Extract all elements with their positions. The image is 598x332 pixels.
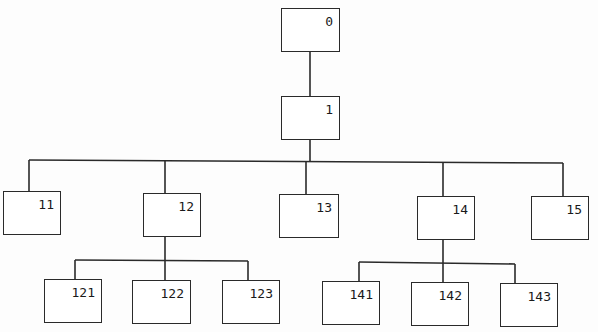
node-label: 123 — [250, 286, 273, 301]
node-15: 15 — [531, 196, 589, 240]
node-121: 121 — [44, 279, 102, 323]
node-143: 143 — [500, 283, 558, 327]
node-label: 11 — [38, 197, 54, 212]
tree-diagram: 0 1 11 12 13 14 15 121 122 123 141 142 1… — [0, 0, 598, 332]
node-label: 13 — [316, 200, 332, 215]
node-label: 14 — [452, 202, 468, 217]
node-label: 121 — [72, 285, 95, 300]
node-14: 14 — [417, 196, 475, 240]
node-11: 11 — [3, 191, 61, 235]
node-13: 13 — [279, 194, 339, 238]
node-1: 1 — [281, 96, 340, 140]
node-123: 123 — [222, 280, 280, 324]
node-label: 142 — [439, 288, 462, 303]
node-142: 142 — [411, 282, 469, 326]
node-label: 15 — [566, 202, 582, 217]
node-0: 0 — [281, 8, 340, 52]
node-122: 122 — [132, 280, 191, 324]
node-12: 12 — [143, 193, 201, 237]
node-label: 122 — [161, 286, 184, 301]
node-label: 143 — [528, 289, 551, 304]
node-label: 1 — [325, 102, 333, 117]
node-label: 12 — [178, 199, 194, 214]
node-141: 141 — [322, 281, 380, 325]
node-label: 0 — [325, 14, 333, 29]
node-label: 141 — [350, 287, 373, 302]
